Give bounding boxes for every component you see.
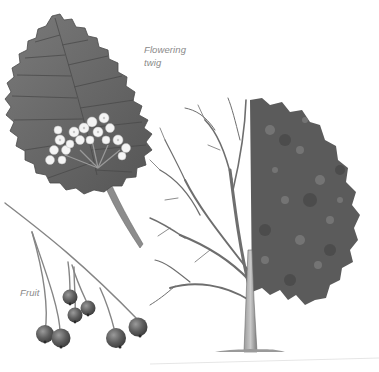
flowering-label-line1: Flowering xyxy=(144,43,186,56)
berry xyxy=(81,301,96,316)
berry xyxy=(63,290,78,305)
fruit-label: Fruit xyxy=(20,286,40,299)
berry xyxy=(129,318,148,337)
tree xyxy=(150,98,379,364)
flowering-twig xyxy=(5,14,152,248)
berry xyxy=(68,308,83,323)
flowering-label-line2: twig xyxy=(144,56,186,69)
flowering-twig-label: Flowering twig xyxy=(144,43,186,69)
berries xyxy=(36,290,148,349)
berry xyxy=(52,329,71,348)
berry xyxy=(106,328,126,348)
berry xyxy=(36,325,54,343)
botanical-illustration xyxy=(0,0,379,372)
bare-branches xyxy=(150,98,250,305)
ground-line xyxy=(150,358,379,364)
ground-grass xyxy=(215,349,285,352)
